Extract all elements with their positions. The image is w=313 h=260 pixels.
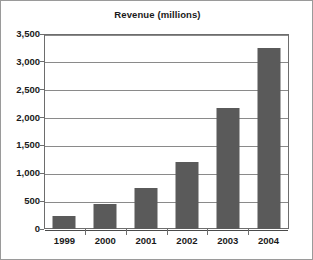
bar-2000[interactable] <box>94 204 117 229</box>
bar-2003[interactable] <box>216 108 239 229</box>
x-tick-label-2004: 2004 <box>248 235 289 247</box>
bar-slot <box>85 34 126 229</box>
x-tick-label-2002: 2002 <box>167 235 208 247</box>
y-tick-label: 1,500 <box>1 140 40 150</box>
bar-2002[interactable] <box>175 162 198 229</box>
bar-slot <box>207 34 248 229</box>
x-tick-label-1999: 1999 <box>44 235 85 247</box>
bar-2004[interactable] <box>257 48 280 229</box>
bars-layer <box>44 34 289 229</box>
bar-1999[interactable] <box>53 216 76 229</box>
x-axis: 199920002001200220032004 <box>44 235 289 251</box>
y-tick-label: 3,000 <box>1 57 40 67</box>
chart-title: Revenue (millions) <box>1 9 313 21</box>
bar-chart-figure: Revenue (millions) 05001,0001,5002,0002,… <box>0 0 313 260</box>
bar-slot <box>44 34 85 229</box>
y-tick-label: 2,500 <box>1 85 40 95</box>
y-tick-label: 0 <box>1 224 40 234</box>
y-tick-label: 3,500 <box>1 29 40 39</box>
y-axis: 05001,0001,5002,0002,5003,0003,500 <box>1 34 40 229</box>
x-tick-label-2001: 2001 <box>126 235 167 247</box>
bar-slot <box>167 34 208 229</box>
bar-2001[interactable] <box>135 188 158 229</box>
y-tick-label: 2,000 <box>1 113 40 123</box>
bar-slot <box>248 34 289 229</box>
bar-slot <box>126 34 167 229</box>
x-tick-label-2003: 2003 <box>207 235 248 247</box>
y-tick-label: 1,000 <box>1 168 40 178</box>
y-tick-label: 500 <box>1 196 40 206</box>
x-tick-label-2000: 2000 <box>85 235 126 247</box>
